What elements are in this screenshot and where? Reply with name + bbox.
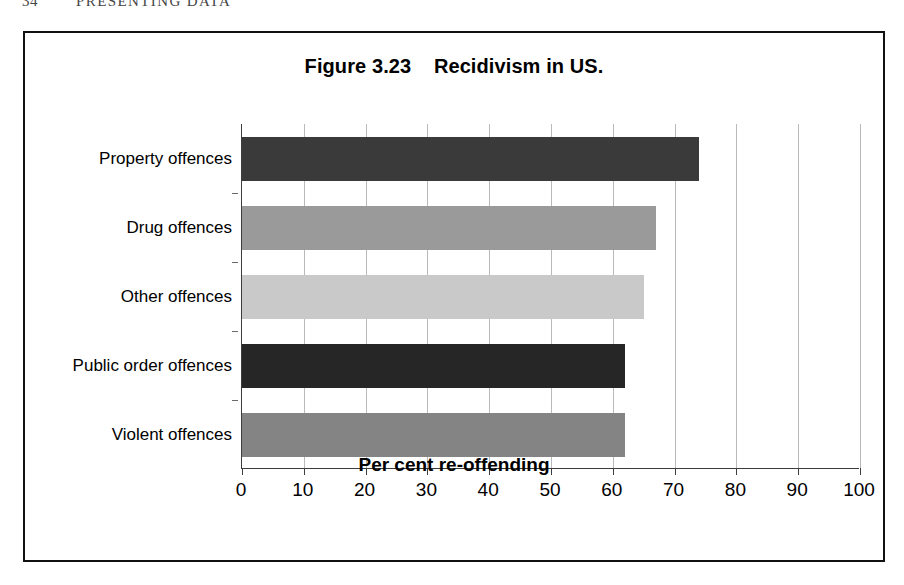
value-axis-tick-label: 90	[787, 479, 808, 501]
category-axis-tick-label: Violent offences	[112, 425, 232, 445]
x-axis-title: Per cent re-offending	[25, 454, 883, 476]
value-axis-tick-label: 30	[416, 479, 437, 501]
value-axis-tick-label: 20	[354, 479, 375, 501]
value-axis-tick-label: 100	[843, 479, 875, 501]
value-axis-tick-label: 80	[725, 479, 746, 501]
bar	[242, 206, 656, 250]
category-axis-labels: Property offencesDrug offencesOther offe…	[36, 124, 232, 469]
page-running-head: 34 PRESENTING DATA	[22, 0, 422, 13]
page-folio: 34	[22, 0, 38, 10]
running-head-text: PRESENTING DATA	[76, 0, 231, 10]
bar	[242, 275, 644, 319]
category-axis-tick	[232, 262, 238, 263]
chart-plot-wrapper: Property offencesDrug offencesOther offe…	[241, 124, 859, 469]
value-axis-tick-label: 0	[236, 479, 247, 501]
bar-series	[242, 124, 859, 468]
bar	[242, 413, 625, 457]
category-axis-tick	[232, 400, 238, 401]
value-axis-tick-label: 40	[478, 479, 499, 501]
category-axis-tick-label: Property offences	[99, 149, 232, 169]
value-axis-tick-label: 70	[663, 479, 684, 501]
chart-plot-area	[241, 124, 859, 469]
category-axis-tick	[232, 193, 238, 194]
figure-frame: Figure 3.23 Recidivism in US. Property o…	[23, 31, 885, 562]
value-axis-tick-label: 60	[601, 479, 622, 501]
value-axis-tick-label: 10	[292, 479, 313, 501]
bar	[242, 137, 699, 181]
value-axis-tick-label: 50	[539, 479, 560, 501]
category-axis-tick-label: Drug offences	[126, 218, 232, 238]
category-axis-tick	[232, 331, 238, 332]
gridline	[860, 124, 861, 468]
figure-title: Figure 3.23 Recidivism in US.	[25, 55, 883, 78]
category-axis-tick-label: Public order offences	[73, 356, 232, 376]
bar	[242, 344, 625, 388]
category-axis-tick-label: Other offences	[121, 287, 232, 307]
